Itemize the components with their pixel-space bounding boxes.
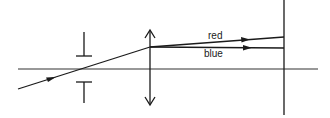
converging-lens — [145, 30, 155, 105]
ray-diagram: red blue — [0, 0, 330, 118]
blue-label: blue — [204, 48, 223, 59]
aperture-stop-top — [76, 32, 92, 56]
aperture-stop-bottom — [76, 82, 92, 103]
red-label: red — [208, 30, 222, 41]
blue-ray-arrow-icon — [243, 45, 252, 51]
red-ray-arrow-icon — [241, 37, 250, 43]
incident-ray-arrow-icon — [46, 77, 56, 82]
